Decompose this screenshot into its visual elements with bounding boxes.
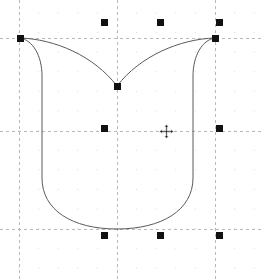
move-cursor-icon bbox=[159, 124, 174, 139]
editor-canvas[interactable] bbox=[0, 0, 264, 280]
cursor-layer bbox=[0, 0, 264, 280]
